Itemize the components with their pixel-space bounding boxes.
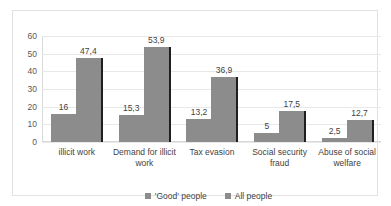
bar[interactable]: 15,3 [119, 115, 144, 142]
legend-label: 'Good' people [155, 191, 207, 201]
bar-group: 13,236,9 [178, 36, 246, 142]
bar-value-label: 15,3 [123, 103, 140, 113]
bar[interactable]: 12,7 [347, 120, 372, 142]
bar[interactable]: 17,5 [279, 111, 304, 142]
bar-group: 2,512,7 [313, 36, 381, 142]
x-axis-category-label: illicit work [43, 147, 111, 169]
bar[interactable]: 2,5 [322, 138, 347, 142]
bar-value-label: 16 [59, 102, 68, 112]
bar-value-label: 12,7 [351, 108, 368, 118]
bar-group: 15,353,9 [110, 36, 178, 142]
legend-swatch-icon [225, 193, 231, 199]
bar-value-label: 47,4 [80, 46, 97, 56]
x-axis-category-label: Abuse of social welfare [313, 147, 381, 169]
bar-value-label: 2,5 [329, 126, 341, 136]
bar-value-label: 13,2 [191, 107, 208, 117]
bar-value-label: 5 [264, 121, 269, 131]
y-axis-tick-label: 20 [28, 102, 37, 112]
bar[interactable]: 5 [254, 133, 279, 142]
legend-swatch-icon [145, 193, 151, 199]
bar-value-label: 53,9 [148, 35, 165, 45]
bar-pair: 15,353,9 [110, 36, 178, 142]
bar-pair: 13,236,9 [178, 36, 246, 142]
bar-group: 517,5 [245, 36, 313, 142]
y-axis-tick-label: 0 [32, 137, 37, 147]
y-axis-tick-label: 30 [28, 84, 37, 94]
bar[interactable]: 36,9 [211, 77, 236, 142]
x-axis-category-label: Social security fraud [246, 147, 314, 169]
x-axis-category-labels: illicit workDemand for illicit workTax e… [43, 147, 381, 169]
legend-item[interactable]: 'Good' people [145, 191, 207, 201]
bar-value-label: 17,5 [284, 99, 301, 109]
bar-value-label: 36,9 [216, 65, 233, 75]
y-axis-tick-label: 10 [28, 119, 37, 129]
y-axis-tick-label: 60 [28, 31, 37, 41]
x-axis-category-label: Tax evasion [178, 147, 246, 169]
chart-container: 0102030405060 1647,415,353,913,236,9517,… [12, 10, 378, 196]
bar[interactable]: 47,4 [76, 58, 101, 142]
plot-area: 0102030405060 1647,415,353,913,236,9517,… [42, 36, 381, 142]
bar[interactable]: 53,9 [144, 47, 169, 142]
legend-item[interactable]: All people [225, 191, 272, 201]
x-axis-category-label: Demand for illicit work [111, 147, 179, 169]
bar-pair: 1647,4 [42, 36, 110, 142]
chart-legend: 'Good' peopleAll people [13, 191, 391, 201]
gridline [42, 142, 381, 143]
bar-pair: 517,5 [245, 36, 313, 142]
bar-pair: 2,512,7 [313, 36, 381, 142]
y-axis-tick-label: 40 [28, 66, 37, 76]
bar[interactable]: 13,2 [186, 119, 211, 142]
bar-group: 1647,4 [42, 36, 110, 142]
y-axis-tick-label: 50 [28, 49, 37, 59]
bar[interactable]: 16 [51, 114, 76, 142]
legend-label: All people [235, 191, 272, 201]
